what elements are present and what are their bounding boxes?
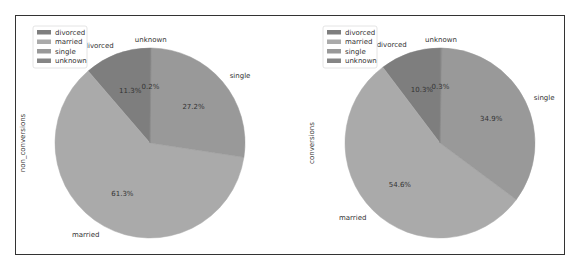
legend-label: divorced <box>55 29 85 37</box>
y-axis-label: conversions <box>308 122 316 164</box>
legend-label: married <box>55 38 82 46</box>
legend-label: unknown <box>345 57 377 65</box>
legend-swatch-unknown <box>327 59 341 64</box>
slice-category-label: unknown <box>135 36 167 44</box>
legend-label: single <box>55 48 76 56</box>
legend-swatch-single <box>37 49 51 54</box>
legend-swatch-divorced <box>327 30 341 35</box>
legend: divorcedmarriedsingleunknown <box>323 26 377 68</box>
slice-percent-label: 0.3% <box>432 83 450 91</box>
legend-swatch-divorced <box>37 30 51 35</box>
slice-category-label: divorced <box>377 41 407 49</box>
pie-chart-conversions: 10.3%divorced54.6%married34.9%single0.3%… <box>308 26 555 238</box>
legend-label: single <box>345 48 366 56</box>
legend-label: divorced <box>345 29 375 37</box>
slice-percent-label: 54.6% <box>389 181 412 189</box>
slice-category-label: married <box>72 231 99 239</box>
slice-percent-label: 27.2% <box>182 103 205 111</box>
legend-label: unknown <box>55 57 87 65</box>
slice-percent-label: 0.2% <box>142 83 160 91</box>
slice-percent-label: 61.3% <box>111 190 134 198</box>
legend: divorcedmarriedsingleunknown <box>33 26 87 68</box>
pie-charts: 11.3%divorced61.3%married27.2%single0.2%… <box>0 0 582 270</box>
slice-category-label: divorced <box>84 42 114 50</box>
legend-swatch-married <box>327 40 341 45</box>
slice-category-label: single <box>230 72 251 80</box>
slice-percent-label: 10.3% <box>411 86 434 94</box>
legend-label: married <box>345 38 372 46</box>
slice-category-label: married <box>339 214 366 222</box>
pie-chart-non_conversions: 11.3%divorced61.3%married27.2%single0.2%… <box>19 26 250 239</box>
slice-percent-label: 34.9% <box>480 115 503 123</box>
slice-percent-label: 11.3% <box>119 87 142 95</box>
legend-swatch-unknown <box>37 59 51 64</box>
slice-category-label: single <box>534 94 555 102</box>
legend-swatch-married <box>37 40 51 45</box>
y-axis-label: non_conversions <box>19 113 27 172</box>
legend-swatch-single <box>327 49 341 54</box>
slice-category-label: unknown <box>425 36 457 44</box>
